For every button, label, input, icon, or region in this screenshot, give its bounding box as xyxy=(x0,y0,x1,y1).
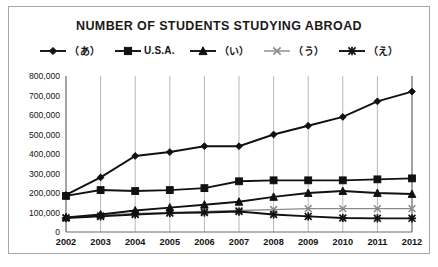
legend-marker-diamond-icon xyxy=(39,45,67,57)
data-point-diamond xyxy=(50,47,57,54)
legend-item-4[interactable]: （う） xyxy=(263,43,324,58)
chart-legend: （あ）U.S.A.（い）（う）（え） xyxy=(9,43,429,58)
legend-item-1[interactable]: （あ） xyxy=(39,43,100,58)
legend-marker-triangle-icon xyxy=(189,45,217,57)
chart-frame: NUMBER OF STUDENTS STUDYING ABROAD （あ）U.… xyxy=(8,6,430,254)
legend-marker-square-icon xyxy=(114,45,142,57)
chart-title: NUMBER OF STUDENTS STUDYING ABROAD xyxy=(9,19,429,33)
data-point-square xyxy=(124,47,131,54)
legend-item-5[interactable]: （え） xyxy=(338,43,399,58)
legend-label: U.S.A. xyxy=(144,45,175,56)
legend-label: （い） xyxy=(219,43,250,58)
legend-label: （う） xyxy=(293,43,324,58)
legend-marker-x-icon xyxy=(263,45,291,57)
legend-label: （え） xyxy=(368,43,399,58)
data-point-star xyxy=(348,46,357,55)
legend-item-3[interactable]: （い） xyxy=(189,43,250,58)
legend-item-2[interactable]: U.S.A. xyxy=(114,45,175,57)
legend-label: （あ） xyxy=(69,43,100,58)
legend-marker-star-icon xyxy=(338,45,366,57)
